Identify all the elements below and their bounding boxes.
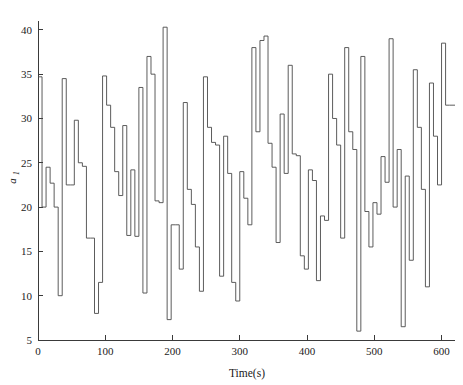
y-tick-label: 20 [21,201,33,213]
y-tick-label: 35 [21,68,33,80]
x-tick-label: 300 [232,345,249,357]
y-tick-label: 25 [21,157,33,169]
x-tick-label: 100 [97,345,114,357]
y-tick-label: 40 [21,24,33,36]
x-axis-title-group: Time(s) [229,367,265,380]
x-tick-label: 0 [35,345,41,357]
x-axis-title: Time(s) [229,367,265,380]
axes-group [38,21,455,340]
x-tick-label: 600 [433,345,450,357]
y-tick-label: 5 [27,334,33,346]
x-tick-label: 400 [299,345,316,357]
y-tick-label: 15 [21,245,33,257]
x-tick-label: 200 [164,345,181,357]
y-tick-group: 510152025303540 [21,24,43,346]
step-chart: 510152025303540 0100200300400500600 Time… [0,0,463,385]
series-group [38,27,455,331]
y-axis-title-subscript: 1 [12,171,21,175]
data-series-line [38,27,455,331]
y-tick-label: 30 [21,112,33,124]
x-tick-label: 500 [366,345,383,357]
figure-container: 510152025303540 0100200300400500600 Time… [0,0,463,385]
y-axis-title-base: a [6,178,18,184]
y-axis-title-group: a 1 [6,171,21,184]
x-tick-group: 0100200300400500600 [35,335,450,357]
y-tick-label: 10 [21,290,33,302]
